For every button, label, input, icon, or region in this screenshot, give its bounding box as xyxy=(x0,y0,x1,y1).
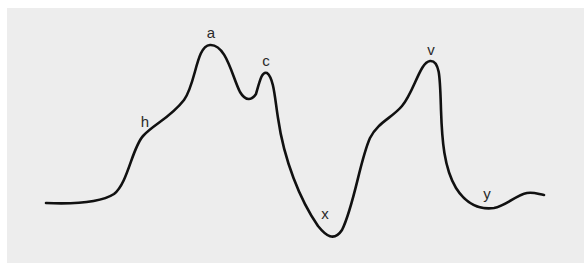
waveform-curve xyxy=(46,45,544,237)
label-y: y xyxy=(483,186,491,201)
label-x: x xyxy=(321,206,329,221)
label-h: h xyxy=(141,114,149,129)
label-c: c xyxy=(262,53,270,68)
waveform-diagram xyxy=(0,0,588,270)
label-v: v xyxy=(427,42,435,57)
label-a: a xyxy=(207,25,215,40)
